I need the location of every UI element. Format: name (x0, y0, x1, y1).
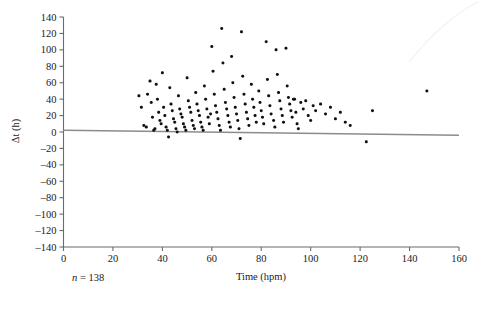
data-point (172, 117, 175, 120)
data-point (165, 126, 168, 129)
data-point (179, 112, 182, 115)
data-point (273, 126, 276, 129)
data-point (137, 94, 140, 97)
x-tick-label: 120 (352, 253, 368, 264)
data-point (365, 140, 368, 143)
data-point (259, 101, 262, 104)
data-point (302, 108, 305, 111)
data-point (167, 135, 170, 138)
data-point (221, 62, 224, 65)
data-point (268, 104, 271, 107)
y-tick-label: –100 (35, 209, 57, 220)
y-tick-label: 120 (41, 28, 57, 39)
y-tick-label: –140 (35, 242, 57, 253)
data-point (204, 98, 207, 101)
data-point (233, 96, 236, 99)
x-tick-label: 80 (256, 253, 267, 264)
data-point (161, 71, 164, 74)
data-point (247, 124, 250, 127)
data-point (267, 94, 270, 97)
y-axis-ticks: 140120100806040200–20–40–60–80–100–120–1… (35, 12, 64, 253)
data-point (187, 99, 190, 102)
data-point (224, 101, 227, 104)
data-point (266, 78, 269, 81)
data-point (186, 76, 189, 79)
data-point (265, 40, 268, 43)
data-point (230, 55, 233, 58)
data-point (215, 111, 218, 114)
sample-size-value: = 138 (77, 272, 104, 283)
y-axis-title: Δt (h) (10, 118, 22, 143)
data-point (339, 111, 342, 114)
data-point (163, 114, 166, 117)
scatter-plot-figure: 140120100806040200–20–40–60–80–100–120–1… (0, 0, 481, 310)
data-point (297, 127, 300, 130)
data-point (309, 119, 312, 122)
y-tick-label: –40 (40, 159, 57, 170)
data-point (262, 122, 265, 125)
data-point (199, 121, 202, 124)
data-point (245, 111, 248, 114)
data-point (182, 122, 185, 125)
data-point (299, 101, 302, 104)
data-points-group (137, 27, 428, 143)
data-point (212, 70, 215, 73)
data-point (156, 98, 159, 101)
data-point (240, 30, 243, 33)
sample-size-annotation: n = 138 (72, 272, 104, 283)
data-point (255, 121, 258, 124)
data-point (329, 106, 332, 109)
y-tick-label: 140 (41, 12, 57, 23)
x-axis-title: Time (hpm) (236, 271, 287, 283)
x-tick-label: 20 (108, 253, 119, 264)
data-point (208, 122, 211, 125)
data-point (371, 109, 374, 112)
data-point (214, 104, 217, 107)
data-point (189, 111, 192, 114)
data-point (242, 93, 245, 96)
data-point (162, 106, 165, 109)
x-tick-label: 100 (303, 253, 319, 264)
data-point (219, 129, 222, 132)
data-point (173, 121, 176, 124)
data-point (296, 122, 299, 125)
data-point (225, 108, 228, 111)
data-point (241, 75, 244, 78)
data-point (270, 112, 273, 115)
data-point (181, 116, 184, 119)
data-point (261, 116, 264, 119)
data-point (344, 121, 347, 124)
regression-line (64, 130, 460, 135)
data-point (146, 93, 149, 96)
data-point (218, 124, 221, 127)
data-point (157, 111, 160, 114)
y-tick-label: 0 (51, 127, 56, 138)
y-tick-label: 100 (41, 44, 57, 55)
data-point (234, 106, 237, 109)
data-point (281, 114, 284, 117)
data-point (160, 122, 163, 125)
data-point (197, 109, 200, 112)
data-point (231, 81, 234, 84)
y-tick-label: –20 (40, 143, 57, 154)
data-point (235, 112, 238, 115)
data-point (200, 126, 203, 129)
data-point (145, 126, 148, 129)
y-tick-label: 40 (46, 94, 57, 105)
data-point (140, 106, 143, 109)
data-point (216, 117, 219, 120)
data-point (202, 129, 205, 132)
x-tick-label: 40 (157, 253, 168, 264)
data-point (294, 111, 297, 114)
x-tick-label: 160 (451, 253, 467, 264)
data-point (198, 114, 201, 117)
data-point (158, 119, 161, 122)
data-point (282, 121, 285, 124)
data-point (213, 93, 216, 96)
data-point (293, 98, 296, 101)
data-point (188, 106, 191, 109)
y-tick-label: 80 (46, 61, 57, 72)
data-point (246, 117, 249, 120)
data-point (280, 108, 283, 111)
data-point (334, 117, 337, 120)
